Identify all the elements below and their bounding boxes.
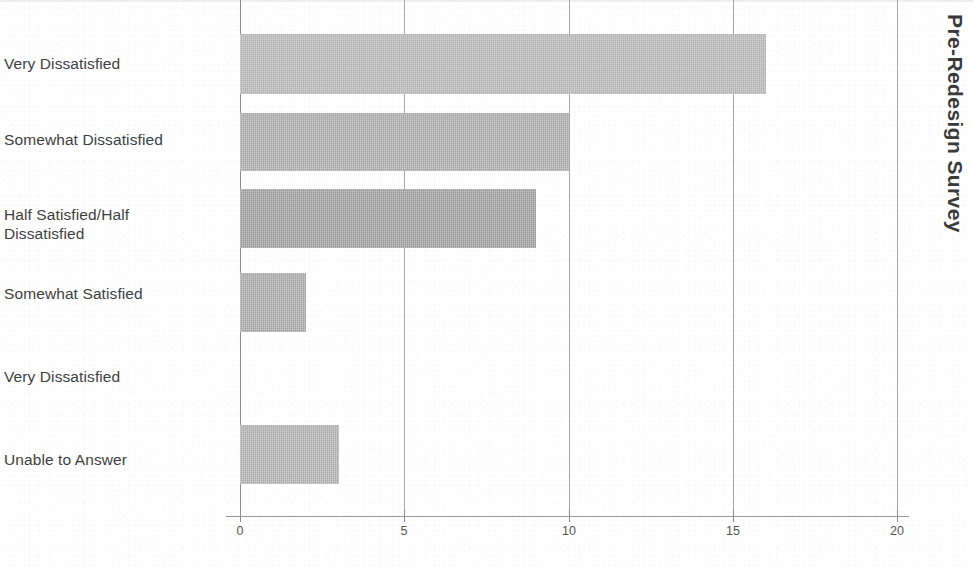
x-tick-label-15: 15 xyxy=(726,524,740,538)
category-label-line-1: Half Satisfied/Half xyxy=(4,205,232,224)
bar-half-satisfied-half-dissatisfied[interactable] xyxy=(240,189,536,248)
x-tick-mark-20 xyxy=(897,510,898,522)
category-label-somewhat-satisfied: Somewhat Satisfied xyxy=(4,284,232,303)
x-tick-mark-15 xyxy=(733,510,734,522)
category-label-somewhat-dissatisfied: Somewhat Dissatisfied xyxy=(4,130,232,149)
chart-title-vertical: Pre-Redesign Survey xyxy=(943,14,967,233)
bar-very-dissatisfied[interactable] xyxy=(240,34,766,94)
category-label-very-dissatisfied-2: Very Dissatisfied xyxy=(4,367,232,386)
plot-area xyxy=(240,0,897,516)
category-label-unable-to-answer: Unable to Answer xyxy=(4,450,232,469)
bar-somewhat-dissatisfied[interactable] xyxy=(240,113,569,171)
gridline-20 xyxy=(897,0,898,516)
x-axis-line xyxy=(226,516,909,517)
x-tick-mark-5 xyxy=(404,510,405,522)
x-tick-mark-0 xyxy=(240,510,241,522)
bar-somewhat-satisfied[interactable] xyxy=(240,273,306,332)
category-label-half-satisfied-half-dissatisfied: Half Satisfied/Half Dissatisfied xyxy=(4,205,232,243)
x-tick-label-0: 0 xyxy=(237,524,244,538)
category-label-line-2: Dissatisfied xyxy=(4,224,232,243)
x-tick-label-5: 5 xyxy=(401,524,408,538)
bar-unable-to-answer[interactable] xyxy=(240,425,339,484)
x-tick-label-10: 10 xyxy=(562,524,576,538)
bar-chart: Very Dissatisfied Somewhat Dissatisfied … xyxy=(0,0,973,568)
category-label-very-dissatisfied: Very Dissatisfied xyxy=(4,54,232,73)
x-tick-label-20: 20 xyxy=(890,524,904,538)
x-tick-mark-10 xyxy=(569,510,570,522)
